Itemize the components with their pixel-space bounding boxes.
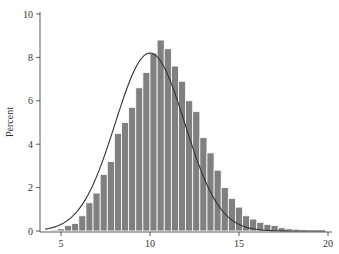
y-tick-label: 6 bbox=[28, 95, 33, 106]
y-axis-ticks: 0246810 bbox=[23, 9, 40, 237]
histogram-bar bbox=[157, 40, 164, 231]
x-axis-ticks: 5101520 bbox=[59, 232, 334, 249]
histogram-bar bbox=[107, 162, 114, 231]
histogram-bar bbox=[129, 107, 136, 231]
y-axis-label: Percent bbox=[4, 107, 15, 137]
histogram-bar bbox=[186, 101, 193, 231]
histogram-bar bbox=[86, 203, 93, 231]
histogram-bar bbox=[235, 207, 242, 231]
y-tick-label: 10 bbox=[23, 9, 33, 20]
histogram-bar bbox=[143, 73, 150, 231]
x-tick-label: 20 bbox=[323, 238, 333, 249]
histogram-bar bbox=[100, 175, 107, 231]
histogram-bar bbox=[79, 216, 86, 231]
x-tick-label: 15 bbox=[234, 238, 244, 249]
y-tick-label: 0 bbox=[28, 226, 33, 237]
histogram-bar bbox=[228, 198, 235, 231]
histogram-bar bbox=[72, 223, 79, 231]
histogram-bar bbox=[122, 123, 129, 232]
histogram-bar bbox=[93, 193, 100, 231]
histogram-bar bbox=[136, 88, 143, 231]
histogram-bar bbox=[243, 216, 250, 231]
histogram-bar bbox=[200, 138, 207, 231]
histogram-bar bbox=[221, 188, 228, 231]
x-tick-label: 10 bbox=[145, 238, 155, 249]
histogram-bar bbox=[114, 133, 121, 231]
y-tick-label: 4 bbox=[28, 139, 33, 150]
y-tick-label: 2 bbox=[28, 182, 33, 193]
histogram-bar bbox=[65, 226, 72, 231]
x-tick-label: 5 bbox=[59, 238, 64, 249]
histogram-bar bbox=[57, 229, 64, 231]
histogram-bar bbox=[193, 112, 200, 231]
histogram-bars bbox=[50, 40, 321, 231]
y-tick-label: 8 bbox=[28, 52, 33, 63]
histogram-bar bbox=[50, 230, 57, 231]
histogram-bar bbox=[150, 53, 157, 231]
histogram-bar bbox=[178, 81, 185, 231]
histogram-bar bbox=[171, 66, 178, 231]
histogram-chart: 0246810 5101520 Percent bbox=[0, 0, 339, 254]
